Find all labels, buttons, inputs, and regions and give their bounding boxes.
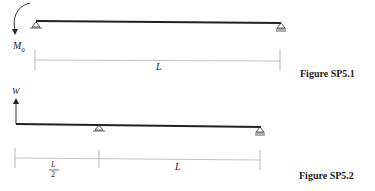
pin-support-left [30, 22, 42, 28]
beam [16, 124, 261, 127]
span-label: L [175, 161, 181, 172]
overhang-label-num: L [51, 160, 55, 169]
span-label: L [156, 61, 162, 72]
figure-caption: Figure SP5.2 [299, 170, 354, 181]
load-label: W [12, 86, 20, 96]
roller-support-right [255, 127, 265, 135]
beam-diagrams [0, 0, 375, 191]
beam [36, 21, 281, 23]
roller-support-right [276, 23, 286, 31]
moment-arrow-icon [14, 3, 30, 30]
overhang-label-den: 2 [51, 170, 55, 179]
figure-caption: Figure SP5.1 [300, 68, 355, 79]
figure-sp5-1 [12, 3, 286, 70]
moment-label: M0 [13, 40, 25, 54]
